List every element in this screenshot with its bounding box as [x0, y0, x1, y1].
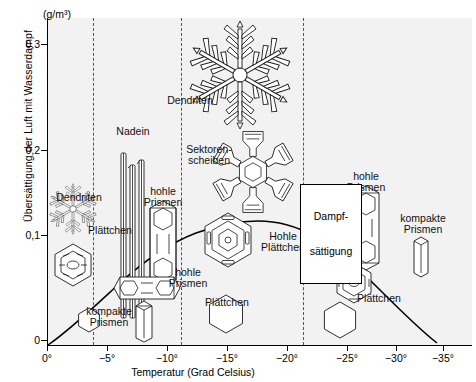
x-tick-mark-2 [167, 345, 168, 351]
divider-line-3 [303, 18, 304, 345]
label-kompakte-prismen-1-line2: Prismen [78, 317, 140, 329]
label-hohle-prismen-1-line2: Prismen [136, 197, 190, 209]
label-dendriten-small: Dendriten [48, 192, 110, 204]
callout-line1: Dampf- [306, 211, 356, 223]
x-tick-label-4: −20° [270, 352, 304, 364]
y-tick-label-2: 0,1 [14, 229, 40, 241]
x-tick-label-0: 0° [30, 352, 64, 364]
y-tick-label-1: 0,2 [14, 144, 40, 156]
label-sektorenscheiben-line2: scheiben [178, 155, 240, 167]
x-tick-label-6: −30° [379, 352, 413, 364]
divider-line-2 [181, 18, 182, 345]
label-plaettchen-middle: Plättchen [196, 297, 258, 309]
x-tick-mark-6 [396, 345, 397, 351]
label-plaettchen-right: Plättchen [348, 293, 410, 305]
label-dendriten-big: Dendriten [159, 95, 221, 107]
x-tick-label-3: −15° [210, 352, 244, 364]
y-tick-mark-3 [41, 340, 48, 341]
snow-crystal-morphology-chart: (g/m³) Übersättigung der Luft mit Wasser… [0, 0, 476, 382]
y-tick-mark-0 [41, 44, 48, 45]
x-tick-label-5: −25° [330, 352, 364, 364]
x-tick-label-2: −10° [150, 352, 184, 364]
x-axis-line [47, 345, 472, 346]
x-tick-label-1: −5° [90, 352, 124, 364]
x-tick-mark-0 [47, 345, 48, 351]
x-axis-title: Temperatur (Grad Celsius) [48, 366, 338, 378]
dampfsaettigung-callout: Dampf- sättigung [300, 184, 362, 284]
y-tick-mark-2 [41, 235, 48, 236]
label-plaettchen-left: Plättchen [80, 225, 140, 237]
x-tick-label-7: −35° [426, 352, 460, 364]
y-tick-mark-1 [41, 150, 48, 151]
y-axis-unit: (g/m³) [43, 8, 71, 20]
divider-line-1 [93, 18, 94, 345]
x-tick-mark-4 [287, 345, 288, 351]
label-kompakte-prismen-2-line2: Prismen [392, 224, 454, 236]
x-tick-mark-3 [227, 345, 228, 351]
x-tick-mark-5 [347, 345, 348, 351]
callout-line2: sättigung [306, 246, 356, 258]
label-nadein: Nadein [105, 126, 161, 138]
y-tick-label-3: 0 [14, 334, 40, 346]
x-tick-mark-7 [443, 345, 444, 351]
y-axis-line [47, 18, 48, 346]
x-tick-mark-1 [107, 345, 108, 351]
y-tick-label-0: 0,3 [14, 38, 40, 50]
label-hohle-prismen-2-line2: Prismen [161, 278, 215, 290]
